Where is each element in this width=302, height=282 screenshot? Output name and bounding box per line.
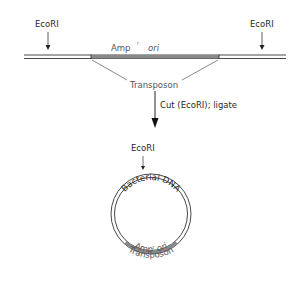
arrow-down-icon xyxy=(260,32,265,50)
transposon-label: Transposon xyxy=(129,80,178,90)
amp-superscript: r xyxy=(137,40,140,46)
plasmid-ecori-label: EcoRI xyxy=(131,143,155,153)
amp-label: Amp xyxy=(111,43,131,53)
ecori-left-label: EcoRI xyxy=(35,19,59,29)
step-arrow-icon xyxy=(152,91,159,128)
step-label: Cut (EcoRI); ligate xyxy=(160,100,237,110)
transposon-segment xyxy=(91,55,219,59)
transposon-diagram: EcoRI EcoRI Amp r ori Transposon Cut (Ec… xyxy=(0,0,302,282)
ecori-right-label: EcoRI xyxy=(250,19,274,29)
linear-dna xyxy=(24,55,286,60)
transposon-bracket xyxy=(92,60,218,80)
bacterial-dna-label: Bacterial DNA xyxy=(119,172,183,194)
arrow-down-icon xyxy=(46,32,51,50)
arrow-down-icon xyxy=(141,156,145,170)
ori-label: ori xyxy=(148,43,160,53)
